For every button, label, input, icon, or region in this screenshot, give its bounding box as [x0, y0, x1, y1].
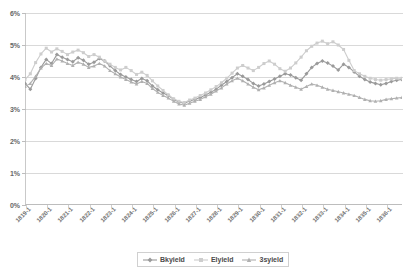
y-axis-tick-label: 1% — [10, 170, 20, 177]
data-point — [300, 56, 303, 59]
data-point — [108, 63, 111, 66]
data-point — [204, 92, 207, 95]
data-point — [140, 80, 144, 83]
data-point — [50, 51, 53, 54]
data-point — [288, 73, 292, 77]
data-point — [29, 72, 32, 75]
data-point — [262, 82, 266, 86]
x-axis-tick-label: 1833-1 — [312, 206, 329, 223]
data-point — [267, 79, 271, 83]
y-axis-tick-label: 2% — [10, 138, 20, 145]
series-line — [25, 59, 402, 105]
data-point — [98, 56, 101, 59]
data-point — [241, 64, 244, 67]
x-axis-tick-label: 1829-1 — [227, 206, 244, 223]
series-bkyield — [25, 53, 402, 106]
data-point — [65, 57, 69, 61]
data-point — [294, 76, 298, 80]
y-axis-tick-label: 5% — [10, 42, 20, 49]
data-point — [236, 67, 239, 70]
x-axis-tick-label: 1823-1 — [99, 206, 116, 223]
data-point — [199, 94, 202, 97]
data-point — [188, 99, 191, 102]
data-point — [331, 40, 334, 43]
data-point — [114, 66, 117, 69]
data-point — [252, 69, 255, 72]
x-axis-tick-label: 1826-1 — [163, 206, 180, 223]
x-axis-tick-label: 1832-1 — [291, 206, 308, 223]
data-point — [379, 83, 383, 87]
data-point — [34, 61, 37, 64]
series-elyield — [25, 40, 402, 104]
data-point — [140, 71, 143, 74]
x-axis-tick-label: 1830-1 — [248, 206, 265, 223]
diamond-marker-icon — [143, 256, 157, 264]
data-point — [45, 47, 48, 50]
legend-label: Bkyield — [160, 256, 185, 263]
x-axis-tick-label: 1831-1 — [269, 206, 286, 223]
data-point — [55, 47, 58, 50]
data-point — [369, 77, 372, 80]
legend-item-3syield[interactable]: 3syield — [242, 256, 283, 264]
data-point — [119, 68, 122, 71]
x-axis-tick-label: 1828-1 — [206, 206, 223, 223]
x-axis-tick-label: 1824-1 — [121, 206, 138, 223]
data-point — [320, 59, 324, 63]
data-point — [273, 77, 277, 81]
data-point — [215, 85, 218, 88]
y-axis-tick-label: 3% — [10, 106, 20, 113]
data-point — [363, 75, 366, 78]
data-point — [268, 60, 271, 63]
data-point — [385, 78, 388, 81]
square-marker-icon — [194, 256, 208, 264]
data-point — [39, 52, 42, 55]
y-axis-tick-label: 0% — [10, 202, 20, 209]
data-point — [358, 72, 361, 75]
data-point — [124, 66, 127, 69]
data-point — [316, 42, 319, 45]
legend-item-bkyield[interactable]: Bkyield — [143, 256, 185, 264]
data-point — [135, 73, 138, 76]
data-point — [71, 51, 74, 54]
data-point — [337, 44, 340, 47]
x-axis-tick-label: 1819-1 — [14, 206, 31, 223]
data-point — [257, 66, 260, 69]
data-point — [220, 81, 223, 84]
data-point — [273, 63, 276, 66]
data-point — [353, 69, 356, 72]
data-point — [82, 51, 85, 54]
data-point — [236, 76, 240, 79]
data-point — [98, 62, 102, 65]
data-point — [156, 84, 159, 87]
x-axis-tick-label: 1836-1 — [376, 206, 393, 223]
data-point — [289, 67, 292, 70]
data-point — [162, 89, 165, 92]
x-axis-tick-label: 1825-1 — [142, 206, 159, 223]
data-point — [310, 45, 313, 48]
triangle-marker-icon — [242, 256, 256, 264]
series-line — [25, 55, 402, 104]
data-point — [262, 62, 265, 65]
data-point — [384, 81, 388, 85]
y-axis-tick-label: 4% — [10, 74, 20, 81]
data-point — [305, 49, 308, 52]
data-point — [368, 80, 372, 84]
x-axis-tick-label: 1821-1 — [57, 206, 74, 223]
x-axis-tick-label: 1835-1 — [354, 206, 371, 223]
data-point — [93, 53, 96, 56]
data-point — [77, 49, 80, 52]
data-point — [294, 61, 297, 64]
legend-label: 3syield — [259, 256, 283, 263]
data-point — [151, 79, 154, 82]
data-point — [342, 48, 345, 51]
x-axis-tick-label: 1834-1 — [333, 206, 350, 223]
legend-item-elyield[interactable]: Elyield — [194, 256, 234, 264]
data-point — [321, 40, 324, 43]
data-point — [193, 97, 196, 100]
data-point — [326, 42, 329, 45]
data-point — [379, 79, 382, 82]
chart-plot-svg — [25, 13, 402, 205]
data-point — [231, 72, 234, 75]
data-point — [60, 55, 64, 59]
x-axis-tick-label: 1820-1 — [36, 206, 53, 223]
